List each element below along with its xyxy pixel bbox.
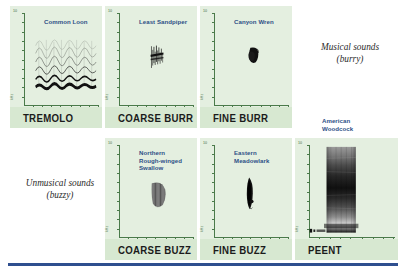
species-label-least-sandpiper: Least Sandpiper (139, 18, 187, 26)
term-label: PEENT (295, 244, 342, 256)
species-label-eastern-meadowlark: Eastern Meadowlark (234, 149, 269, 164)
y-axis-unit-label: kHz (295, 226, 299, 232)
term-band-coarse-burr: COARSE BURR (105, 107, 197, 128)
y-axis-unit-label: kHz (105, 226, 109, 232)
spectrogram-coarse-burr (149, 45, 166, 69)
y-axis-unit-label: kHz (10, 94, 14, 100)
panel-coarse-buzz: 10 kHz 0.5 sec (105, 138, 197, 260)
annotation-musical-sounds: Musical sounds (burry) (300, 42, 400, 65)
panel-fine-burr: 10 kHz 0.5 sec FINE BURR Canyon Wren (200, 6, 292, 128)
panel-peent: 10 kHz 0.5 sec (295, 138, 398, 260)
y-axis-unit-label: kHz (200, 94, 204, 100)
panel-tremolo: 10 kHz 0.5 sec (10, 6, 102, 128)
term-label: COARSE BUZZ (105, 244, 191, 256)
species-label-american-woodcock: American Woodcock (322, 117, 353, 132)
term-band-tremolo: TREMOLO (10, 107, 102, 128)
spectrogram-peent (324, 146, 358, 234)
plot-area-tremolo: 10 kHz 0.5 sec (24, 13, 99, 106)
y-axis-max-label: 10 (203, 9, 207, 13)
spectrogram-peent-tail (309, 227, 328, 234)
term-band-fine-burr: FINE BURR (200, 107, 292, 128)
species-label-northern-rough-winged-swallow: Northern Rough-winged Swallow (139, 149, 182, 172)
footer-rule (8, 263, 398, 266)
term-band-peent: PEENT (295, 239, 398, 260)
panel-fine-buzz: 10 kHz 0.5 sec FINE BUZZ Eastern Meadowl… (200, 138, 292, 260)
y-axis-unit-label: kHz (200, 226, 204, 232)
y-axis-max-label: 10 (13, 9, 17, 13)
plot-area-fine-burr: 10 kHz 0.5 sec (214, 13, 289, 106)
plot-area-peent: 10 kHz 0.5 sec (309, 145, 395, 238)
y-axis-unit-label: kHz (105, 94, 109, 100)
y-axis-max-label: 10 (108, 9, 112, 13)
term-label: TREMOLO (10, 112, 73, 124)
y-axis-max-label: 10 (203, 141, 207, 145)
term-band-coarse-buzz: COARSE BUZZ (105, 239, 197, 260)
plot-area-coarse-burr: 10 kHz 0.5 sec (119, 13, 194, 106)
spectrogram-fine-buzz (244, 177, 256, 210)
term-label: COARSE BURR (105, 112, 193, 124)
y-axis-max-label: 10 (298, 141, 302, 145)
spectrogram-fine-burr (247, 46, 261, 65)
y-axis-max-label: 10 (108, 141, 112, 145)
term-label: FINE BURR (200, 112, 268, 124)
annotation-unmusical-sounds: Unmusical sounds (buzzy) (8, 178, 112, 201)
species-label-canyon-wren: Canyon Wren (234, 18, 274, 26)
term-band-fine-buzz: FINE BUZZ (200, 239, 292, 260)
panel-coarse-burr: 10 kHz 0.5 sec (105, 6, 197, 128)
spectrogram-figure: 10 kHz 0.5 sec (0, 0, 406, 273)
spectrogram-coarse-buzz (151, 180, 168, 210)
term-label: FINE BUZZ (200, 244, 266, 256)
species-label-common-loon: Common Loon (44, 18, 88, 26)
spectrogram-tremolo (35, 38, 98, 96)
